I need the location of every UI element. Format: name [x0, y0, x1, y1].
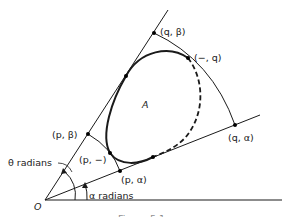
polar-region-diagram: A O (q, β) (−, q) (q, α) (p, β) (p, −) (…: [0, 0, 287, 217]
arc-radius-p: [88, 134, 120, 171]
theta-arrowhead: [61, 168, 67, 174]
point-dash-q: [186, 56, 190, 60]
point-q-alpha: [233, 123, 237, 127]
label-p-beta: (p, β): [52, 129, 78, 140]
label-q-beta: (q, β): [160, 26, 186, 37]
label-q-alpha: (q, α): [228, 132, 254, 143]
label-p-alpha: (p, α): [121, 174, 147, 185]
point-p-beta: [86, 132, 90, 136]
point-tangent-upper: [124, 74, 128, 78]
origin-label: O: [34, 201, 42, 212]
point-p-alpha: [118, 169, 122, 173]
arc-radius-q: [154, 33, 235, 125]
point-tangent-lower: [151, 155, 155, 159]
label-alpha-radians: α radians: [89, 190, 134, 201]
label-theta-radians: θ radians: [8, 157, 52, 168]
figure-caption: Figure 5.1: [118, 213, 165, 217]
region-label: A: [141, 99, 149, 110]
theta-angle-arc: [65, 172, 75, 200]
point-p-dash: [108, 151, 112, 155]
point-q-beta: [152, 31, 156, 35]
label-p-dash: (p, −): [79, 154, 106, 165]
label-dash-q: (−, q): [194, 52, 221, 63]
region-boundary-dashed: [153, 58, 200, 157]
